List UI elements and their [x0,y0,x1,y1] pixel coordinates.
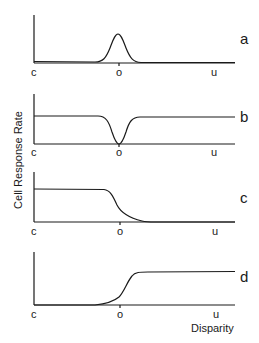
tick-u: u [211,146,217,158]
panel-label-c: c [240,189,248,206]
response-curve [34,189,235,222]
disparity-tuning-figure: c o u c o u c o u c o u a b c d Cell Res… [0,0,259,343]
panel-b [34,94,235,147]
panel-label-b: b [240,108,248,125]
tick-labels-a: c o u [31,66,217,78]
tick-c: c [31,146,37,158]
response-curve [34,272,235,306]
panel-label-a: a [240,30,249,47]
panel-c [34,172,235,225]
tick-labels-d: c o u [31,308,219,320]
tick-o: o [117,308,123,320]
x-axis-label: Disparity [191,322,234,334]
panel-label-d: d [240,268,248,285]
tick-labels-c: c o u [31,225,218,237]
tick-u: u [213,308,219,320]
y-axis-label: Cell Response Rate [12,111,24,209]
tick-u: u [211,66,217,78]
tick-c: c [31,308,37,320]
panel-a [34,15,235,66]
tick-o: o [116,146,122,158]
tick-o: o [117,225,123,237]
tick-o: o [116,66,122,78]
panel-d [34,252,235,308]
tick-u: u [212,225,218,237]
tick-labels-b: c o u [31,146,217,158]
response-curve [34,34,235,63]
tick-c: c [31,66,37,78]
tick-c: c [31,225,37,237]
response-curve [34,116,235,144]
